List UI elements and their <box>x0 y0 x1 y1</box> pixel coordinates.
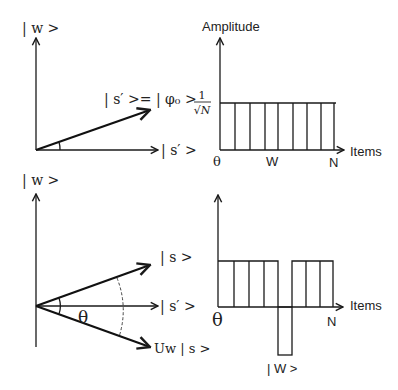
items-axis-label-2: Items <box>350 298 382 313</box>
s-prime-axis-label: | s′ > <box>161 142 197 159</box>
tick-n-2: N <box>327 314 336 329</box>
grover-diagram: | w > | s′ > | s′ >= | φ₀ > Amplitude It… <box>0 0 398 390</box>
phi0-vector <box>36 110 150 150</box>
tick-theta-2: θ <box>212 309 223 330</box>
phi0-vector-label: | s′ >= | φ₀ > <box>104 91 197 108</box>
panel-bottom-right-amplitudes: Items θ N | W > <box>212 195 382 376</box>
w-axis-label-2: | w > <box>22 172 59 189</box>
uw-s-vector <box>36 306 150 347</box>
w-axis-label: | w > <box>22 20 59 37</box>
uniform-bars <box>220 103 336 150</box>
tick-w: W <box>266 154 279 169</box>
panel-top-left-vectors: | w > | s′ > | s′ >= | φ₀ > <box>22 20 197 159</box>
tick-theta: θ <box>213 154 221 169</box>
uw-s-vector-label: Uw | s > <box>154 341 210 356</box>
s-vector-label: | s > <box>160 249 193 266</box>
tick-n: N <box>329 155 338 170</box>
s-vector <box>36 265 150 306</box>
flipped-bars <box>218 261 333 355</box>
level-denominator: √N <box>194 104 211 117</box>
marked-item-label: | W > <box>267 361 297 376</box>
panel-top-right-amplitudes: Amplitude Items 1 √N θ W N <box>194 19 383 170</box>
level-numerator: 1 <box>199 89 206 102</box>
amplitude-axis-label: Amplitude <box>202 19 260 34</box>
theta-label: θ <box>78 307 88 327</box>
s-prime-label-2: | s′ > <box>160 298 196 315</box>
rotation-arc <box>117 278 123 337</box>
marked-item-bar <box>278 307 292 355</box>
angle-arc <box>59 142 60 150</box>
panel-bottom-left-reflection: | w > | s′ > | s > Uw | s > θ <box>22 172 210 356</box>
items-axis-label: Items <box>350 144 382 159</box>
